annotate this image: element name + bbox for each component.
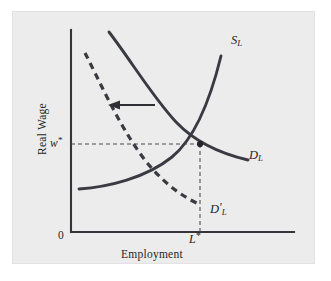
- y-axis-title: Real Wage: [36, 81, 48, 177]
- figure-root: SL DL D′L w* L* 0 Employment Real Wage: [0, 0, 331, 281]
- demand-label-base: D: [249, 148, 258, 162]
- equilibrium-wage-label: w*: [50, 135, 63, 149]
- labor-supply-curve: [79, 56, 221, 189]
- shifted-demand-label-subscript: L: [222, 207, 227, 217]
- labor-demand-curve: [109, 32, 248, 160]
- equilibrium-point-dot: [197, 141, 203, 147]
- equilibrium-wage-base: w: [50, 137, 58, 149]
- equilibrium-employment-label: L*: [189, 230, 201, 247]
- shifted-demand-curve-label: D′L: [210, 200, 227, 217]
- demand-curve-label: DL: [249, 148, 263, 163]
- equilibrium-employment-base: L: [189, 232, 196, 246]
- supply-label-subscript: L: [237, 38, 242, 48]
- origin-label: 0: [58, 229, 64, 241]
- supply-curve-label: SL: [231, 33, 242, 48]
- equilibrium-wage-star: *: [58, 135, 63, 145]
- shifted-demand-label-base: D: [210, 202, 219, 216]
- demand-label-subscript: L: [258, 153, 263, 163]
- equilibrium-employment-star: *: [196, 230, 201, 241]
- x-axis-title: Employment: [121, 248, 183, 260]
